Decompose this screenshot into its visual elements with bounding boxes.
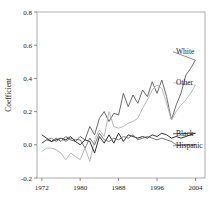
series-label-hispanic: Hispanic [176, 141, 203, 150]
y-tick-label: 0.4 [23, 75, 32, 83]
y-tick-label: -0.2 [21, 175, 33, 183]
series-line-black [42, 133, 196, 153]
series-label-white: White [176, 47, 195, 56]
series-line-white [42, 60, 196, 143]
x-tick-label: 1972 [35, 184, 50, 192]
y-tick-label: 0.6 [23, 42, 32, 50]
y-tick-label: 0.8 [23, 9, 32, 17]
y-tick-label: 0.0 [23, 141, 32, 149]
x-tick-label: 1980 [73, 184, 88, 192]
y-axis-ticks: -0.20.00.20.40.60.8 [21, 9, 37, 183]
series-line-other [42, 85, 196, 161]
plot-frame [37, 12, 205, 178]
chart-figure: -0.20.00.20.40.60.8 19721980198819962004… [0, 0, 214, 203]
coefficient-line-chart: -0.20.00.20.40.60.8 19721980198819962004… [0, 0, 214, 203]
x-tick-label: 1996 [150, 184, 165, 192]
series-labels: WhiteOtherBlackHispanic [173, 47, 203, 150]
series-lines [42, 60, 196, 161]
x-axis-ticks: 19721980198819962004 [35, 178, 203, 192]
y-axis-title: Coefficient [4, 77, 13, 112]
series-label-other: Other [176, 78, 194, 87]
x-tick-label: 2004 [188, 184, 203, 192]
y-tick-label: 0.2 [23, 108, 32, 116]
series-label-black: Black [176, 129, 194, 138]
series-line-hispanic [42, 133, 196, 148]
x-tick-label: 1988 [112, 184, 127, 192]
